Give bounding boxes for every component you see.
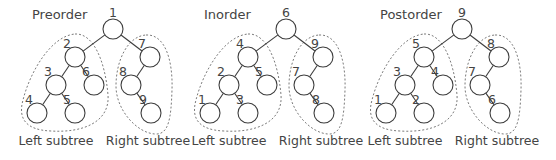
- node-label: 5: [255, 64, 263, 79]
- tree-title: Preorder: [32, 7, 88, 22]
- tree-title: Inorder: [204, 7, 251, 22]
- tree-edge: [392, 93, 400, 104]
- tree-edge: [62, 65, 70, 76]
- node-label: 1: [374, 92, 382, 107]
- node-label: 2: [63, 36, 71, 51]
- node-label: 6: [282, 5, 290, 20]
- tree-edge: [310, 65, 318, 76]
- left-subtree-label: Left subtree: [191, 133, 266, 148]
- node-label: 4: [236, 36, 244, 51]
- node-label: 3: [236, 92, 244, 107]
- tree-node: [103, 19, 123, 39]
- tree-edge: [235, 65, 243, 76]
- node-label: 7: [292, 64, 300, 79]
- node-label: 1: [109, 5, 117, 20]
- node-label: 6: [488, 92, 496, 107]
- node-label: 2: [412, 92, 420, 107]
- node-label: 3: [393, 64, 401, 79]
- tree-node: [276, 19, 296, 39]
- tree-edge: [43, 93, 51, 104]
- node-label: 7: [468, 64, 476, 79]
- tree-preorder: Preorder123456789Left subtreeRight subtr…: [18, 5, 190, 148]
- right-subtree-label: Right subtree: [106, 133, 191, 148]
- tree-edge: [486, 65, 494, 76]
- tree-node: [452, 19, 472, 39]
- node-label: 6: [82, 64, 90, 79]
- node-label: 5: [412, 36, 420, 51]
- node-label: 2: [217, 64, 225, 79]
- node-label: 4: [25, 92, 33, 107]
- node-label: 5: [63, 92, 71, 107]
- right-subtree-label: Right subtree: [455, 133, 540, 148]
- node-label: 8: [312, 92, 320, 107]
- tree-edge: [411, 65, 419, 76]
- left-subtree-label: Left subtree: [18, 133, 93, 148]
- node-label: 8: [487, 36, 495, 51]
- node-label: 1: [198, 92, 206, 107]
- tree-postorder: Postorder953124876Left subtreeRight subt…: [367, 5, 539, 148]
- node-label: 7: [138, 36, 146, 51]
- node-label: 9: [311, 36, 319, 51]
- left-subtree-label: Left subtree: [367, 133, 442, 148]
- node-label: 3: [44, 64, 52, 79]
- tree-edge: [137, 65, 145, 76]
- tree-edge: [216, 93, 224, 104]
- node-label: 9: [458, 5, 466, 20]
- node-label: 4: [431, 64, 439, 79]
- right-subtree-label: Right subtree: [279, 133, 364, 148]
- node-label: 8: [119, 64, 127, 79]
- node-label: 9: [139, 92, 147, 107]
- tree-title: Postorder: [380, 7, 443, 22]
- traversal-diagram: Preorder123456789Left subtreeRight subtr…: [0, 0, 556, 160]
- tree-inorder: Inorder642135978Left subtreeRight subtre…: [191, 5, 363, 148]
